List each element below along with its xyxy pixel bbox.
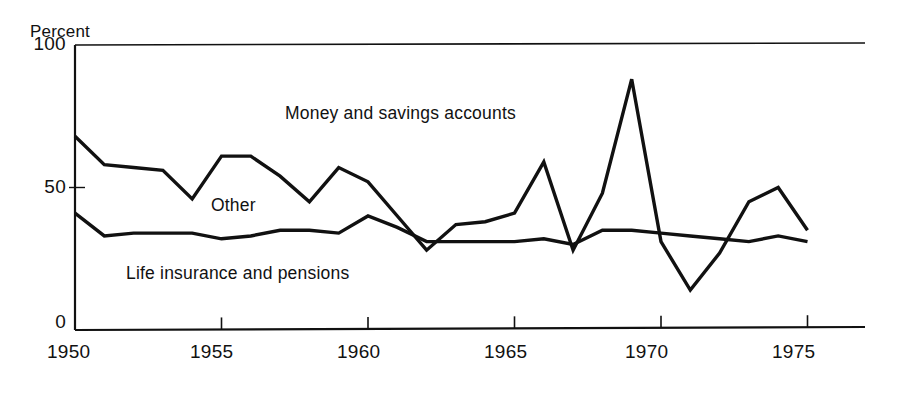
plot-area [0,0,905,393]
x-axis-line [75,327,865,330]
series-line-life-insurance-and-pensions [75,213,808,244]
top-axis-rule [75,43,865,45]
series-line-money-and-savings-accounts [75,79,808,290]
chart-figure: Percent 100 50 0 1950 1955 1960 1965 197… [0,0,905,393]
data-series-layer [75,79,808,290]
